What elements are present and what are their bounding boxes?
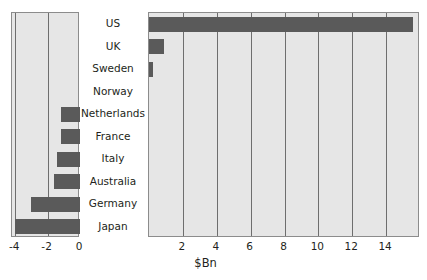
gridline-4 xyxy=(217,13,218,236)
bar-uk xyxy=(149,39,164,54)
bar-italy xyxy=(57,152,80,167)
category-label-france: France xyxy=(81,125,145,148)
tick-label-14: 14 xyxy=(370,240,400,252)
bar-france xyxy=(61,129,80,144)
category-label-us: US xyxy=(81,12,145,35)
gridline-6 xyxy=(251,13,252,236)
category-label-uk: UK xyxy=(81,35,145,58)
category-label-australia: Australia xyxy=(81,170,145,193)
bar-netherlands xyxy=(61,107,80,122)
category-label-japan: Japan xyxy=(81,215,145,238)
gridline--4 xyxy=(15,13,16,236)
tick-label-2: 2 xyxy=(167,240,197,252)
gridline-8 xyxy=(285,13,286,236)
tick-label-8: 8 xyxy=(269,240,299,252)
category-label-germany: Germany xyxy=(81,192,145,215)
category-label-netherlands: Netherlands xyxy=(81,102,145,125)
tick-label-6: 6 xyxy=(235,240,265,252)
category-label-norway: Norway xyxy=(81,80,145,103)
x-axis-title: $Bn xyxy=(176,256,236,270)
negative-value-panel xyxy=(11,12,79,237)
bar-us xyxy=(149,17,413,32)
positive-value-panel xyxy=(148,12,419,237)
tick-label-10: 10 xyxy=(302,240,332,252)
tick-label-0: 0 xyxy=(64,240,94,252)
bar-japan xyxy=(15,219,80,234)
category-label-italy: Italy xyxy=(81,147,145,170)
gridline-10 xyxy=(318,13,319,236)
category-axis-labels: USUKSwedenNorwayNetherlandsFranceItalyAu… xyxy=(81,12,145,237)
bar-sweden xyxy=(149,62,153,77)
gridline-14 xyxy=(386,13,387,236)
category-label-sweden: Sweden xyxy=(81,57,145,80)
tick-label--4: -4 xyxy=(0,240,29,252)
tick-label--2: -2 xyxy=(32,240,62,252)
gridline-2 xyxy=(183,13,184,236)
gridline-12 xyxy=(352,13,353,236)
bar-germany xyxy=(31,197,80,212)
tick-label-4: 4 xyxy=(201,240,231,252)
bar-chart-figure: USUKSwedenNorwayNetherlandsFranceItalyAu… xyxy=(0,0,427,280)
tick-label-12: 12 xyxy=(336,240,366,252)
bar-australia xyxy=(54,174,80,189)
